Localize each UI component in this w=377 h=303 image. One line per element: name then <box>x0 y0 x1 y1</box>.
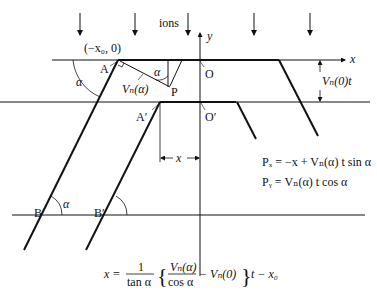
point-b-prime-label: B′ <box>94 206 105 220</box>
equation-px: Pₓ = −x + Vₙ(α) t sin α <box>262 155 372 169</box>
ions-label: ions <box>159 16 179 30</box>
main-eq-tail: t − x₀ <box>251 267 278 281</box>
main-eq-frac-den: tan α <box>127 275 152 289</box>
vn0t-label: Vₙ(0)t <box>322 74 352 88</box>
main-eq-inner-den: cos α <box>168 275 194 289</box>
y-axis-label: y <box>206 29 213 43</box>
alpha-arc-b <box>51 196 62 215</box>
point-a-prime-label: A′ <box>136 110 148 124</box>
point-o-prime-label: O′ <box>205 110 217 124</box>
point-a-label: A <box>100 62 109 76</box>
initial-right-wall <box>279 60 318 136</box>
ion-etching-diagram: ions y x x Vₙ(0)t (−x₀, 0) A P O A′ O′ B <box>0 0 377 303</box>
leader-o-prime <box>201 103 205 110</box>
vn-alpha-label: Vₙ(α) <box>122 82 148 96</box>
point-o-label: O <box>205 67 214 81</box>
alpha-label-p: α <box>154 65 161 79</box>
alpha-arc-b-prime <box>116 196 127 215</box>
x-axis-label: x <box>349 52 356 66</box>
main-eq-lbrace: { <box>157 263 168 288</box>
wall-extension <box>170 60 182 86</box>
point-p-label: P <box>171 85 178 99</box>
eroded-right-wall <box>237 102 256 139</box>
x-dimension-label: x <box>175 151 182 165</box>
point-b-label: B <box>34 206 42 220</box>
leader-vn <box>138 74 143 80</box>
right-angle-mark <box>118 63 124 67</box>
start-point-label: (−x₀, 0) <box>84 41 121 55</box>
eroded-left-wall <box>86 102 160 250</box>
ion-arrows <box>80 13 310 35</box>
main-equation: x = 1 tan α { Vₙ(α) cos α − Vₙ(0) } t − … <box>103 260 278 289</box>
alpha-label-b: α <box>63 197 70 211</box>
main-eq-lhs: x = <box>103 267 120 281</box>
equation-py: Pᵧ = Vₙ(α) t cos α <box>262 175 348 189</box>
main-eq-minus-vn0: − Vₙ(0) <box>199 267 236 281</box>
main-eq-frac-num: 1 <box>138 260 144 274</box>
main-eq-inner-num: Vₙ(α) <box>170 260 196 274</box>
leader-o <box>200 61 204 67</box>
initial-left-wall <box>24 60 118 250</box>
main-eq-rbrace: } <box>241 263 252 288</box>
alpha-label-left: α <box>76 75 83 89</box>
